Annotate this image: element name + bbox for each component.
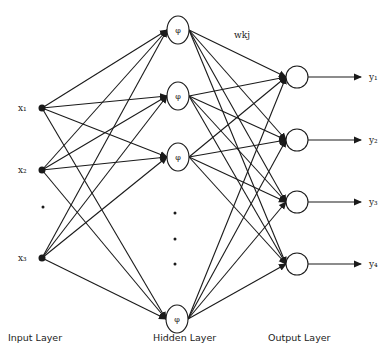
input-node xyxy=(39,167,46,174)
connection-line xyxy=(42,30,167,258)
input-label: x₂ xyxy=(18,165,27,175)
output-label: y₂ xyxy=(368,135,378,145)
connection-line xyxy=(189,157,286,264)
connection-line xyxy=(42,30,167,170)
connection-line xyxy=(189,30,286,202)
connection-line xyxy=(42,30,167,108)
output-node xyxy=(286,253,308,275)
connection-line xyxy=(189,96,286,140)
input-node xyxy=(39,105,46,112)
connection-line xyxy=(189,30,286,140)
output-label: y₁ xyxy=(368,72,378,82)
input-label: x₃ xyxy=(18,253,27,263)
input-hidden-connections xyxy=(42,30,167,319)
input-node xyxy=(39,255,46,262)
connection-line xyxy=(189,77,286,96)
hidden-layer-label: Hidden Layer xyxy=(153,332,216,343)
input-layer-label: Input Layer xyxy=(8,332,62,343)
connection-line xyxy=(189,157,286,202)
input-layer-nodes: x₁x₂x₃ xyxy=(18,103,46,263)
ellipsis-dot xyxy=(174,212,177,215)
connection-line xyxy=(42,170,166,319)
output-arrows: y₁y₂y₃y₄ xyxy=(308,72,378,269)
output-label: y₃ xyxy=(368,197,378,207)
hidden-output-connections xyxy=(188,30,286,319)
ellipsis-dot xyxy=(42,206,45,209)
activation-phi: φ xyxy=(175,153,181,162)
connection-line xyxy=(42,96,167,258)
input-label: x₁ xyxy=(18,103,27,113)
ellipsis-dot xyxy=(174,263,177,266)
weight-label: wkj xyxy=(234,30,250,40)
output-node xyxy=(286,191,308,213)
connection-line xyxy=(189,77,286,157)
output-label: y₄ xyxy=(368,259,378,269)
connection-line xyxy=(188,202,286,319)
connection-line xyxy=(42,157,167,258)
connection-line xyxy=(188,77,286,319)
connection-line xyxy=(189,140,286,157)
ellipsis-dot xyxy=(174,238,177,241)
connection-line xyxy=(42,258,166,319)
activation-phi: φ xyxy=(175,26,181,35)
ellipsis-dots xyxy=(42,206,177,266)
hidden-layer-nodes: φφφφ xyxy=(166,16,189,333)
output-node xyxy=(286,66,308,88)
neural-network-diagram: y₁y₂y₃y₄ x₁x₂x₃ φφφφ wkj xyxy=(0,0,391,354)
output-layer-nodes xyxy=(286,66,308,275)
connection-line xyxy=(42,108,166,319)
connection-line xyxy=(42,96,167,108)
output-node xyxy=(286,129,308,151)
output-layer-label: Output Layer xyxy=(268,332,331,343)
activation-phi: φ xyxy=(174,315,180,324)
activation-phi: φ xyxy=(175,92,181,101)
